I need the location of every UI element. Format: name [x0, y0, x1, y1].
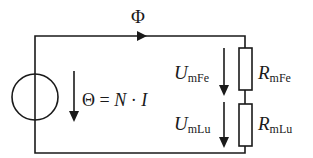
- mmf-arrow-icon: [69, 71, 79, 122]
- formula-equals: =: [95, 90, 114, 110]
- mmf-source-icon: [12, 74, 58, 120]
- voltage-airgap-label: UmLu: [174, 113, 210, 136]
- voltage-iron-arrow-head: [219, 85, 229, 96]
- flux-arrow-icon: [137, 31, 147, 41]
- mmf-arrow-head: [69, 111, 79, 122]
- resistor-iron-symbol: R: [257, 62, 270, 83]
- resistor-airgap: [239, 104, 252, 146]
- voltage-airgap-arrow-head: [219, 137, 229, 148]
- formula-n: N: [113, 90, 127, 110]
- resistor-airgap-symbol: R: [257, 113, 270, 134]
- top-wire: [35, 36, 245, 74]
- mmf-formula: Θ = N · I: [82, 90, 148, 110]
- resistor-iron: [239, 48, 252, 90]
- flux-label: Φ: [131, 6, 145, 27]
- bottom-wire: [35, 120, 245, 153]
- magnetic-circuit-diagram: Φ Θ = N · I RmFe RmLu UmFe UmLu: [0, 0, 313, 158]
- resistor-iron-label: RmFe: [257, 62, 291, 85]
- formula-i: I: [140, 90, 148, 110]
- formula-theta: Θ: [82, 90, 95, 110]
- formula-dot: ·: [126, 90, 141, 110]
- voltage-iron-subscript: mFe: [188, 71, 209, 85]
- resistor-airgap-subscript: mLu: [270, 122, 293, 136]
- resistor-iron-subscript: mFe: [270, 71, 291, 85]
- resistor-airgap-label: RmLu: [257, 113, 292, 136]
- voltage-iron-label: UmFe: [174, 62, 209, 85]
- voltage-airgap-subscript: mLu: [188, 122, 211, 136]
- voltage-airgap-arrow-icon: [219, 102, 229, 148]
- voltage-iron-arrow-icon: [219, 48, 229, 96]
